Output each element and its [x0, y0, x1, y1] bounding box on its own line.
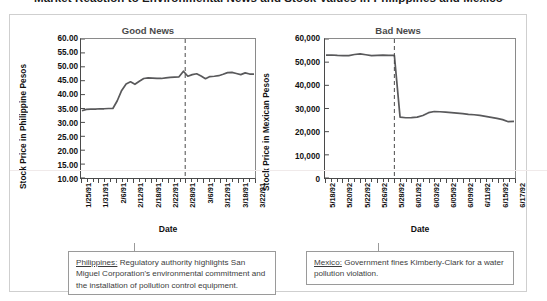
x-tick-mark [122, 179, 123, 182]
caption-leader-left [134, 243, 135, 251]
x-tick-mark [127, 179, 128, 182]
x-tick-label: 5/28/92 [397, 183, 406, 208]
x-tick-label: 3/18/91 [241, 183, 250, 208]
x-tick-label: 6/09/92 [466, 183, 475, 208]
x-tick-label: 6/03/92 [432, 183, 441, 208]
x-tick-mark [400, 179, 401, 182]
x-tick-mark [104, 179, 105, 182]
x-tick-mark [371, 179, 372, 182]
x-tick-mark [226, 179, 227, 182]
y-tick-label: 35.00 [58, 104, 79, 113]
x-tick-mark [249, 179, 250, 182]
x-axis-title-right: Date [324, 224, 516, 234]
caption-lead-philippines: Philippines: [76, 258, 117, 267]
x-tick-label: 2/22/91 [171, 183, 180, 208]
x-tick-label: 2/18/91 [154, 183, 163, 208]
x-tick-mark [110, 179, 111, 182]
y-axis-ticks-left: 60.0055.0050.0045.0040.0035.0030.0025.00… [34, 19, 78, 179]
y-tick-label: 25.00 [58, 132, 79, 141]
x-tick-label: 5/26/92 [380, 183, 389, 208]
y-tick-label: 20.00 [58, 146, 79, 155]
y-tick-label: 45.00 [58, 76, 79, 85]
x-tick-mark [93, 179, 94, 182]
y-tick-label: 15.00 [58, 160, 79, 169]
x-tick-mark [417, 179, 418, 182]
x-tick-mark [87, 179, 88, 182]
y-tick-label: 10,000 [295, 151, 320, 160]
chart-panel-good-news: Good News Stock Price in Philippine Peso… [16, 19, 262, 234]
x-tick-mark [434, 179, 435, 182]
y-tick-label: 50,000 [295, 57, 320, 66]
y-tick-label: 40,000 [295, 81, 320, 90]
x-tick-mark [180, 179, 181, 182]
y-tick-label: 60,000 [295, 34, 320, 43]
x-tick-label: 5/20/92 [345, 183, 354, 208]
x-tick-mark [492, 179, 493, 182]
x-tick-mark [331, 179, 332, 182]
x-axis-title-left: Date [80, 224, 256, 234]
x-tick-mark [423, 179, 424, 182]
x-tick-label: 6/11/92 [483, 183, 492, 207]
x-tick-mark [452, 179, 453, 182]
x-tick-label: 5/18/92 [328, 183, 337, 208]
x-axis-labels-right: 5/18/925/20/925/22/925/26/925/28/926/01/… [324, 183, 516, 227]
x-tick-mark [191, 179, 192, 182]
plot-area-good-news [80, 38, 256, 179]
chart-panel-bad-news: Bad News Stock Price in Mexican Pesos 60… [260, 19, 522, 234]
x-tick-mark [145, 179, 146, 182]
x-tick-mark [348, 179, 349, 182]
x-axis-labels-left: 1/25/911/31/912/6/912/12/912/18/912/22/9… [80, 183, 256, 227]
x-tick-label: 5/22/92 [363, 183, 372, 208]
y-axis-label-left: Stock Price in Philippine Pesos [19, 43, 28, 189]
x-tick-mark [469, 179, 470, 182]
page-title: Market Reaction to Environmental News an… [0, 0, 537, 4]
y-tick-label: 60.00 [58, 34, 79, 43]
x-tick-mark [354, 179, 355, 182]
x-tick-mark [232, 179, 233, 182]
y-tick-label: 40.00 [58, 90, 79, 99]
x-tick-label: 6/15/92 [501, 183, 510, 208]
x-tick-mark [486, 179, 487, 182]
y-tick-label: 30,000 [295, 104, 320, 113]
x-tick-mark [139, 179, 140, 182]
x-tick-mark [209, 179, 210, 182]
x-tick-mark [243, 179, 244, 182]
page-hairline [10, 170, 547, 171]
x-tick-mark [475, 179, 476, 182]
x-tick-mark [162, 179, 163, 182]
x-tick-label: 1/31/91 [101, 183, 110, 208]
caption-philippines: Philippines: Regulatory authority highli… [68, 251, 276, 295]
y-axis-label-right: Stock Price in Mexican Pesos [262, 39, 271, 191]
x-tick-label: 2/12/91 [136, 183, 145, 208]
y-tick-label: 0 [315, 175, 320, 184]
x-tick-mark [214, 179, 215, 182]
y-tick-label: 10.00 [58, 175, 79, 184]
x-tick-mark [197, 179, 198, 182]
x-tick-mark [406, 179, 407, 182]
x-tick-label: 6/01/92 [414, 183, 423, 208]
y-tick-label: 30.00 [58, 118, 79, 127]
x-tick-mark [457, 179, 458, 182]
y-axis-ticks-right: 60,00050,00040,00030,00020,00010,0000 [274, 19, 320, 179]
caption-lead-mexico: Mexico: [314, 258, 342, 267]
x-tick-mark [440, 179, 441, 182]
x-tick-mark [383, 179, 384, 182]
y-tick-label: 20,000 [295, 128, 320, 137]
x-tick-label: 2/28/91 [188, 183, 197, 208]
plot-area-bad-news [324, 38, 516, 179]
x-tick-mark [337, 179, 338, 182]
line-series-bad-news [325, 39, 515, 178]
figure-frame: Good News Stock Price in Philippine Peso… [9, 14, 527, 292]
x-tick-mark [509, 179, 510, 182]
x-tick-label: 6/17/92 [518, 183, 527, 208]
y-tick-label: 55.00 [58, 48, 79, 57]
y-tick-label: 50.00 [58, 62, 79, 71]
caption-mexico: Mexico: Government fines Kimberly-Clark … [306, 251, 514, 285]
x-tick-mark [365, 179, 366, 182]
x-tick-label: 3/6/91 [206, 183, 215, 204]
caption-text-mexico: Government fines Kimberly-Clark for a wa… [314, 258, 504, 278]
x-tick-label: 6/05/92 [449, 183, 458, 208]
x-tick-mark [174, 179, 175, 182]
caption-leader-right [378, 243, 379, 251]
